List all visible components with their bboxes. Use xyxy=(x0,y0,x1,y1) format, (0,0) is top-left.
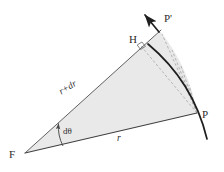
velocity-arrow xyxy=(145,15,159,32)
figure-container: P' H P F r r+dr dθ xyxy=(0,0,224,172)
label-h: H xyxy=(129,34,137,45)
label-d-theta: dθ xyxy=(63,127,72,136)
diagram-svg xyxy=(0,0,224,172)
label-f: F xyxy=(9,149,15,160)
shaded-sector xyxy=(25,31,197,153)
label-radius-r: r xyxy=(117,134,121,144)
label-p-prime: P' xyxy=(164,13,172,24)
label-p: P xyxy=(202,109,208,120)
